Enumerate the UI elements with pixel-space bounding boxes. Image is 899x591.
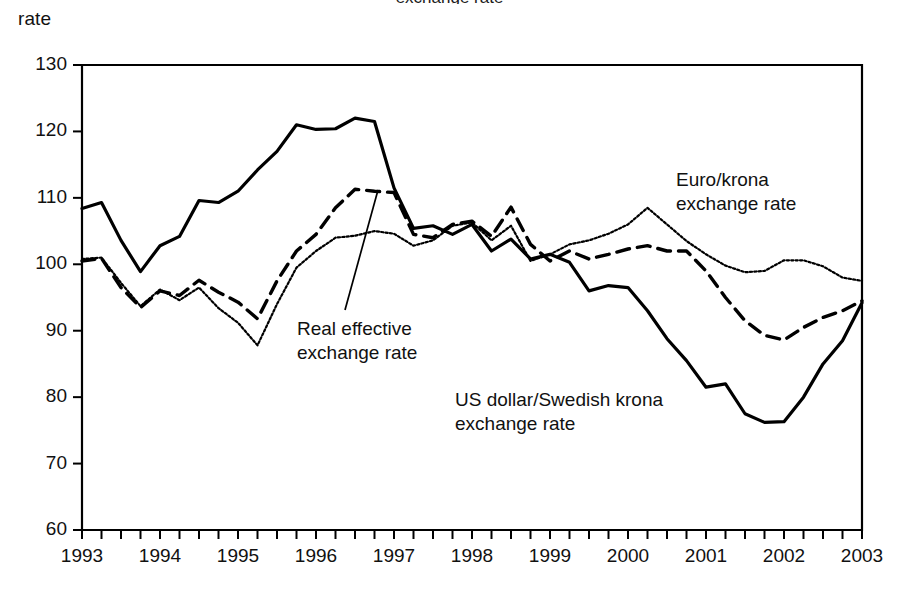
y-tick-label: 80: [21, 385, 67, 407]
annotation-leader-lines: [345, 190, 378, 310]
real-effective-label-leader-line: [345, 190, 378, 310]
series-layer: [82, 118, 862, 422]
real-effective-label: Real effective exchange rate: [297, 317, 417, 365]
series-line-1: [82, 118, 862, 422]
x-tick-label: 1995: [203, 545, 273, 567]
series-line-3: [82, 208, 862, 346]
x-tick-label: 1993: [47, 545, 117, 567]
y-tick-label: 90: [21, 319, 67, 341]
x-tick-label: 1994: [125, 545, 195, 567]
euro-krona-label: Euro/krona exchange rate: [676, 168, 796, 216]
x-tick-label: 1999: [515, 545, 585, 567]
plot-frame: [82, 65, 862, 530]
x-tick-label: 2003: [827, 545, 897, 567]
us-dollar-krona-label: US dollar/Swedish krona exchange rate: [455, 388, 663, 436]
x-tick-label: 1996: [281, 545, 351, 567]
x-tick-label: 2002: [749, 545, 819, 567]
line-chart-plot: [0, 0, 899, 591]
x-tick-label: 2000: [593, 545, 663, 567]
chart-page: exchange rate rate 13012011010090807060 …: [0, 0, 899, 591]
axes-layer: [73, 65, 862, 539]
x-tick-label: 2001: [671, 545, 741, 567]
y-tick-label: 100: [21, 252, 67, 274]
x-tick-label: 1998: [437, 545, 507, 567]
y-tick-label: 130: [21, 53, 67, 75]
y-tick-label: 120: [21, 119, 67, 141]
y-tick-label: 110: [21, 186, 67, 208]
y-tick-label: 60: [21, 518, 67, 540]
y-tick-label: 70: [21, 452, 67, 474]
x-tick-label: 1997: [359, 545, 429, 567]
